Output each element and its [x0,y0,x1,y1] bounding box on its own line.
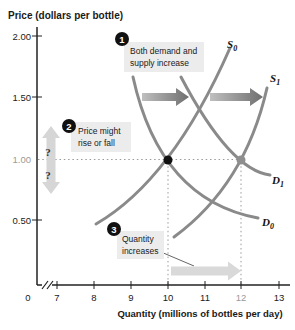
callout-1-line-1: Both demand and [130,46,197,56]
x-tick-12: 12 [236,292,247,303]
supply-curve-S1 [174,88,267,237]
y-tick-1.50: 1.50 [13,92,32,103]
callout-3-line-2: increases [122,246,158,256]
chart-canvas: Price (dollars per bottle) 2.00 1.50 1.0… [0,0,295,330]
initial-equilibrium-dot [164,156,173,165]
x-tick-11: 11 [200,292,210,303]
quantity-increase-arrow [171,262,241,281]
x-tick-9: 9 [128,292,133,303]
callout-2-line-1: Price might [78,126,121,136]
supply-shift-arrow [210,88,263,106]
x-tick-7: 7 [54,292,59,303]
x-axis-title: Quantity (millions of bottles per day) [117,308,282,319]
y-tick-0.50: 0.50 [13,215,32,226]
callout-1: 1 Both demand and supply increase [115,32,204,72]
supply-demand-figure: Price (dollars per bottle) 2.00 1.50 1.0… [0,0,295,330]
callout-1-number: 1 [119,34,125,45]
y-tick-2.00: 2.00 [13,31,32,42]
x-tick-0: 0 [25,292,30,303]
question-mark-lower: ? [45,169,51,181]
x-tick-13: 13 [274,292,285,303]
callout-1-line-2: supply increase [130,58,189,68]
label-S1: S1 [270,72,280,87]
label-D1: D1 [271,174,284,189]
callout-2-line-2: rise or fall [78,138,115,148]
dotted-guides [38,160,241,285]
callout-2: 2 Price might rise or fall [62,119,131,152]
demand-shift-arrow [142,88,189,106]
x-tick-10: 10 [163,292,174,303]
x-tick-8: 8 [91,292,96,303]
y-tick-1.00: 1.00 [13,154,32,165]
callout-2-number: 2 [66,121,71,132]
price-uncertainty-arrow [42,126,60,194]
y-axis-title: Price (dollars per bottle) [8,10,123,21]
callout-3: 3 Quantity increases [107,222,164,259]
label-D0: D0 [261,216,274,231]
question-mark-upper: ? [45,146,51,158]
new-equilibrium-dot [237,156,246,165]
callout-3-number: 3 [111,224,116,235]
callout-3-line-1: Quantity [122,234,154,244]
callout-3-pointer-line [161,252,194,266]
